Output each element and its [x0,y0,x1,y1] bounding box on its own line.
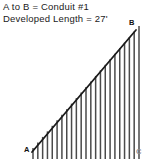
point-label-b: B [129,19,134,27]
point-label-c: C [136,148,141,156]
conduit-diagram-figure: A to B = Conduit #1 Developed Length = 2… [0,0,143,159]
point-label-a: A [24,146,29,154]
conduit-run-drawing [0,0,143,159]
